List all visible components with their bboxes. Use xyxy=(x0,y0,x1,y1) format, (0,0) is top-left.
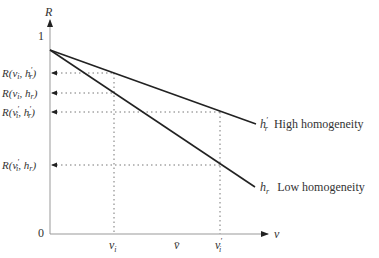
low-homogeneity-line xyxy=(50,50,255,187)
x-tick-vbar: v̄ xyxy=(174,238,180,252)
x-tick-vi-prime: v′i xyxy=(215,237,222,254)
y-tick-one: 1 xyxy=(38,29,44,43)
low-line-label: hrLow homogeneity xyxy=(260,180,365,196)
y-value-labels: R(vi, h′r) R(vi, hr) R(v′i, h′r) R(v′i, … xyxy=(1,66,38,173)
high-line-label: h′rHigh homogeneity xyxy=(260,116,364,133)
x-axis-label: v xyxy=(274,227,280,241)
guide-lines xyxy=(52,73,220,234)
y-tick-zero: 0 xyxy=(38,226,44,240)
y-axis-label: R xyxy=(44,5,53,19)
x-tick-vi: vi xyxy=(109,238,117,254)
svg-text:R(vi, hr): R(vi, hr) xyxy=(1,87,38,101)
svg-text:R(vi, h′r): R(vi, h′r) xyxy=(1,66,36,81)
y-markers xyxy=(51,71,57,168)
high-homogeneity-line xyxy=(50,50,256,124)
svg-text:R(v′i, hr): R(v′i, hr) xyxy=(1,158,36,173)
svg-text:R(v′i, h′r): R(v′i, h′r) xyxy=(1,105,35,120)
diagram: R v 1 0 R(vi, h′r) R(vi, hr) R(v′i, h′r)… xyxy=(0,0,379,258)
